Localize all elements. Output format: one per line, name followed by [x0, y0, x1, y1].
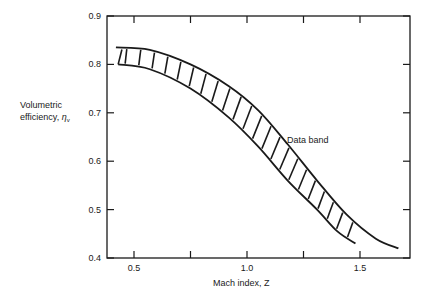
band-upper-curve	[116, 47, 399, 248]
band-hatch	[177, 62, 181, 80]
band-hatch	[327, 202, 333, 219]
y-axis-label-line1: Volumetric	[20, 100, 63, 110]
band-left-cap	[118, 49, 122, 64]
y-axis-label-line2: efficiency, ηv	[20, 112, 70, 123]
band-hatch	[125, 49, 127, 63]
band-hatch	[189, 67, 193, 86]
band-hatch	[271, 137, 280, 159]
y-tick-label: 0.7	[88, 108, 101, 118]
band-hatch	[280, 148, 289, 170]
data-band-annotation: Data band	[287, 135, 329, 145]
band-hatch	[308, 181, 315, 199]
y-tick-label: 0.8	[88, 59, 101, 69]
chart: 0.40.50.60.70.80.9 0.51.01.5 Volumetric …	[0, 0, 431, 301]
band-hatch	[223, 89, 230, 111]
band-hatch	[201, 74, 206, 94]
band-hatch	[165, 57, 168, 74]
band-hatch	[253, 116, 262, 139]
plot-frame	[107, 16, 410, 258]
band-hatch	[289, 159, 298, 180]
x-tick-label: 0.5	[128, 263, 141, 273]
band-hatch	[337, 213, 343, 229]
band-hatch	[262, 126, 271, 148]
y-axis-label-text: efficiency,	[20, 112, 62, 122]
band-hatch	[318, 191, 324, 208]
y-tick-label: 0.9	[88, 11, 101, 21]
x-tick-label: 1.0	[241, 263, 254, 273]
band-hatch	[152, 53, 154, 69]
data-band	[116, 47, 399, 248]
plot-border	[107, 16, 410, 258]
band-hatch	[298, 170, 306, 190]
band-hatch	[243, 106, 252, 129]
y-tick-label: 0.4	[88, 253, 101, 263]
band-hatch	[233, 97, 241, 119]
y-tick-label: 0.5	[88, 205, 101, 215]
x-axis-label: Mach index, Z	[213, 278, 270, 288]
band-hatch	[212, 81, 218, 102]
x-tick-label: 1.5	[354, 263, 367, 273]
y-tick-label: 0.6	[88, 156, 101, 166]
band-hatch	[139, 50, 141, 65]
band-hatch	[348, 222, 353, 237]
eta-subscript: v	[67, 117, 70, 123]
